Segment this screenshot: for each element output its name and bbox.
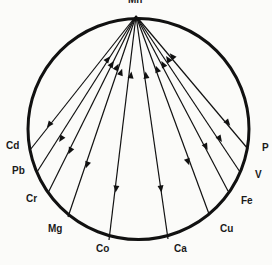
interaction-line-v	[136, 16, 240, 172]
arrow-down-icon	[158, 185, 164, 192]
interaction-line-cr	[48, 16, 136, 193]
arrow-down-icon	[85, 161, 91, 169]
node-label-cr: Cr	[26, 194, 37, 204]
node-label-cd: Cd	[6, 141, 19, 151]
arrow-down-icon	[68, 147, 74, 155]
interaction-line-ca	[136, 16, 168, 239]
outer-circle	[28, 19, 249, 240]
interaction-line-fe	[136, 16, 228, 191]
interaction-line-mg	[68, 16, 136, 217]
node-label-cu: Cu	[220, 224, 233, 234]
interaction-line-cd	[30, 16, 136, 150]
interaction-line-pb	[37, 16, 136, 172]
arrow-up-icon	[155, 66, 161, 74]
node-label-mg: Mg	[48, 224, 62, 234]
node-label-ca: Ca	[174, 244, 187, 254]
node-label-co: Co	[96, 244, 109, 254]
node-label-fe: Fe	[241, 196, 253, 206]
node-label-p: P	[262, 143, 269, 153]
interaction-diagram: Mn CdPbCrMgCoCaCuFeVP	[0, 0, 272, 265]
node-label-v: V	[255, 170, 262, 180]
interaction-line-cu	[136, 16, 209, 214]
interaction-line-co	[109, 16, 136, 240]
node-label-pb: Pb	[12, 166, 25, 176]
arrow-down-icon	[184, 158, 190, 166]
center-node-label: Mn	[128, 0, 142, 5]
